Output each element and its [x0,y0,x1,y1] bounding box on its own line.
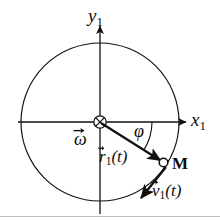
x-axis-label-subscript: 1 [199,118,205,133]
phi-angle-arc [144,122,152,150]
r-symbol: r [99,147,106,166]
diagram-canvas [0,0,220,220]
v-symbol: v [152,181,160,200]
omega-symbol: ω [74,129,87,149]
y-axis-label-subscript: 1 [96,14,102,29]
y-axis-label: y1 [88,6,103,29]
v-argument: (t) [165,181,181,200]
vector-diagram-figure: y1 x1 ω φ r1(t) v1(t) M [0,0,220,220]
phi-angle-label: φ [134,122,144,140]
r-argument: (t) [111,147,127,166]
radius-vector-label: r1(t) [99,148,127,168]
v-glyph: v [152,182,160,199]
point-m-label: M [172,155,188,172]
x-axis-label: x1 [191,110,206,133]
point-m-marker [159,158,168,167]
angular-velocity-label: ω [74,130,87,148]
r-glyph: r [99,148,106,165]
velocity-vector-label: v1(t) [152,182,181,202]
omega-glyph: ω [74,130,87,148]
